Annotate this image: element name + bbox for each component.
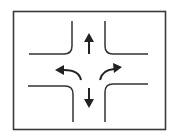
sign-frame — [14, 12, 166, 130]
intersection-sign — [0, 0, 173, 138]
